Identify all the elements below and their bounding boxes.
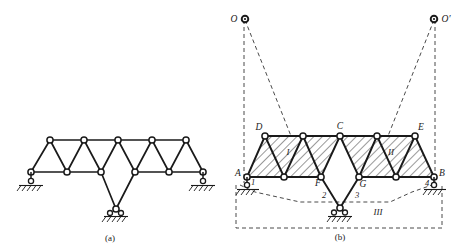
label-B: B: [439, 168, 445, 178]
panel-a-caption: (a): [105, 233, 115, 243]
label-F: F: [314, 178, 321, 188]
panel-b: O O′ D C E A B F G 1 2 3 4 I II III (b): [231, 14, 452, 242]
label-region-III: III: [373, 207, 384, 217]
label-link-1: 1: [251, 177, 255, 187]
panel-a-left-support: [17, 186, 43, 192]
node-E: [412, 133, 418, 139]
panel-b-instant-center-dots: [244, 18, 435, 20]
label-O: O: [231, 14, 238, 24]
label-D: D: [255, 122, 263, 132]
panel-a-bottom-support: [102, 217, 128, 223]
panel-a-support-stems: [31, 172, 203, 179]
figure-svg: (a): [0, 0, 457, 252]
label-link-2: 2: [322, 190, 327, 200]
node-D: [262, 133, 268, 139]
panel-b-instant-center-rays: [245, 20, 434, 136]
label-C: C: [337, 121, 344, 131]
label-region-II: II: [387, 147, 395, 157]
figure-root: (a): [0, 0, 457, 252]
panel-a: (a): [17, 137, 215, 243]
label-G: G: [360, 179, 367, 189]
label-E: E: [417, 122, 424, 132]
label-link-3: 3: [354, 190, 359, 200]
panel-b-caption: (b): [335, 232, 346, 242]
label-O-prime: O′: [442, 14, 452, 24]
panel-a-members: [31, 140, 203, 209]
panel-a-right-support: [189, 186, 215, 192]
panel-b-instant-center-nodes: [242, 16, 438, 23]
label-A: A: [234, 168, 241, 178]
label-link-4: 4: [425, 178, 430, 188]
node-C: [337, 133, 343, 139]
